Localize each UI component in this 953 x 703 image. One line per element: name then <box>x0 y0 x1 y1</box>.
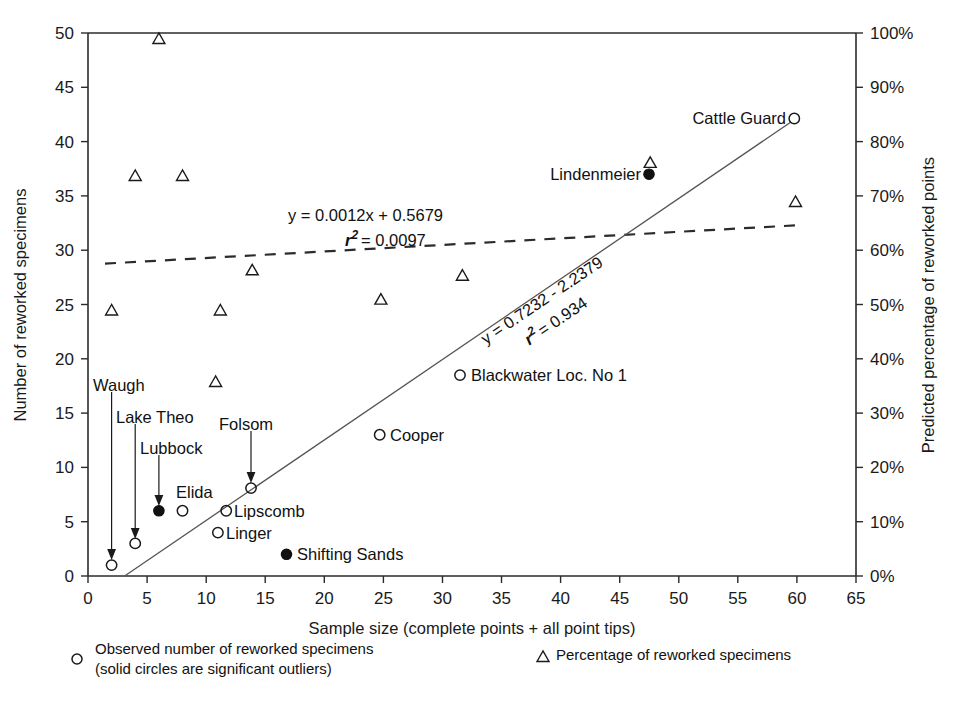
arrowhead-folsom <box>247 472 256 483</box>
x-tick-label-30: 30 <box>433 589 452 608</box>
equation-dashed-group: y = 0.0012x + 0.5679 r2= 0.0097 <box>288 206 443 249</box>
legend-triangle-label: Percentage of reworked specimens <box>556 646 791 663</box>
y-tick-label-0: 0 <box>65 567 74 586</box>
point-lindenmeier-outlier <box>644 169 654 179</box>
point-lake-theo <box>130 538 140 548</box>
y-axis-right-ticks: 0% 10% 20% 30% 40% 50% 60% 70% 80% 90% 1… <box>856 24 913 586</box>
triangle-marker <box>153 33 165 44</box>
legend-circle-icon <box>72 654 82 664</box>
label-blackwater: Blackwater Loc. No 1 <box>471 366 627 384</box>
equation-dashed-r2: r2= 0.0097 <box>345 228 426 249</box>
y2-tick-label-100: 100% <box>870 24 913 43</box>
x-tick-label-10: 10 <box>197 589 216 608</box>
point-waugh <box>106 560 116 570</box>
triangle-marker <box>644 157 656 168</box>
x-tick-label-20: 20 <box>315 589 334 608</box>
triangle-marker <box>129 170 141 181</box>
label-cattle-guard: Cattle Guard <box>692 109 786 127</box>
y-tick-label-35: 35 <box>55 187 74 206</box>
x-tick-label-45: 45 <box>610 589 629 608</box>
point-labels: Waugh Lake Theo Lubbock Elida Folsom Lip… <box>93 109 786 563</box>
y-tick-label-15: 15 <box>55 404 74 423</box>
label-cooper: Cooper <box>390 426 445 444</box>
x-tick-label-65: 65 <box>847 589 866 608</box>
point-cooper <box>375 430 385 440</box>
y-axis-title: Number of reworked specimens <box>11 189 29 422</box>
triangle-marker <box>106 305 118 316</box>
y2-tick-label-60: 60% <box>870 241 904 260</box>
label-linger: Linger <box>226 524 272 542</box>
y-tick-label-10: 10 <box>55 458 74 477</box>
legend-circle-label-line2: (solid circles are significant outliers) <box>95 660 332 677</box>
x-axis-ticks: 0 5 10 15 20 25 30 35 40 45 50 55 60 65 <box>83 576 865 608</box>
arrowhead-lake-theo <box>131 528 140 539</box>
legend-circle-label-line1: Observed number of reworked specimens <box>95 640 373 657</box>
y-tick-label-50: 50 <box>55 24 74 43</box>
label-elida: Elida <box>176 483 214 501</box>
y2-tick-label-80: 80% <box>870 133 904 152</box>
y2-tick-label-0: 0% <box>870 567 895 586</box>
x-tick-label-5: 5 <box>142 589 151 608</box>
y2-tick-label-50: 50% <box>870 296 904 315</box>
arrowhead-lubbock <box>155 495 164 506</box>
scatter-chart: 0 5 10 15 20 25 30 35 40 45 50 0% <box>0 0 953 703</box>
y2-tick-label-10: 10% <box>870 513 904 532</box>
y-axis-left-ticks: 0 5 10 15 20 25 30 35 40 45 50 <box>55 24 88 586</box>
figure-container: 0 5 10 15 20 25 30 35 40 45 50 0% <box>0 0 953 703</box>
y2-tick-label-40: 40% <box>870 350 904 369</box>
trendline-percentage-dashed <box>105 225 800 264</box>
arrowhead-waugh <box>107 549 116 560</box>
series-count-markers <box>106 113 799 570</box>
y2-tick-label-20: 20% <box>870 458 904 477</box>
trendline-count-solid <box>125 122 791 576</box>
x-tick-label-55: 55 <box>728 589 747 608</box>
y2-axis-title: Predicted percentage of reworked points <box>919 157 937 453</box>
point-cattle-guard <box>789 113 799 123</box>
y2-tick-label-90: 90% <box>870 78 904 97</box>
equation-dashed: y = 0.0012x + 0.5679 <box>288 206 443 224</box>
triangle-marker <box>375 294 387 305</box>
legend-triangle-icon <box>537 651 549 662</box>
y-tick-label-30: 30 <box>55 241 74 260</box>
label-lubbock: Lubbock <box>140 439 203 457</box>
point-elida <box>177 506 187 516</box>
triangle-marker <box>790 196 802 207</box>
y-tick-label-45: 45 <box>55 78 74 97</box>
x-tick-label-40: 40 <box>551 589 570 608</box>
label-waugh: Waugh <box>93 376 145 394</box>
triangle-marker <box>177 170 189 181</box>
y-tick-label-20: 20 <box>55 350 74 369</box>
y-tick-label-25: 25 <box>55 296 74 315</box>
y2-tick-label-70: 70% <box>870 187 904 206</box>
label-folsom: Folsom <box>219 415 273 433</box>
point-blackwater <box>455 370 465 380</box>
x-tick-label-0: 0 <box>83 589 92 608</box>
x-tick-label-25: 25 <box>374 589 393 608</box>
label-lake-theo: Lake Theo <box>116 408 194 426</box>
triangle-marker <box>456 270 468 281</box>
y2-tick-label-30: 30% <box>870 404 904 423</box>
x-tick-label-50: 50 <box>669 589 688 608</box>
r2-value: = 0.0097 <box>361 231 426 249</box>
label-shifting-sands: Shifting Sands <box>297 545 403 563</box>
triangle-marker <box>246 264 258 275</box>
x-tick-label-60: 60 <box>787 589 806 608</box>
x-tick-label-35: 35 <box>492 589 511 608</box>
y-tick-label-40: 40 <box>55 133 74 152</box>
label-lipscomb: Lipscomb <box>234 502 305 520</box>
point-shifting-sands-outlier <box>281 549 291 559</box>
x-tick-label-15: 15 <box>256 589 275 608</box>
triangle-marker <box>214 305 226 316</box>
triangle-marker <box>210 376 222 387</box>
point-lubbock-outlier <box>154 506 164 516</box>
y-tick-label-5: 5 <box>65 513 74 532</box>
r-exponent: 2 <box>350 228 358 242</box>
legend: Observed number of reworked specimens (s… <box>72 640 791 677</box>
label-lindenmeier: Lindenmeier <box>550 165 641 183</box>
equation-solid-group: y = 0.7232 - 2.2379 r2= 0.934 <box>477 253 619 368</box>
x-axis-title: Sample size (complete points + all point… <box>309 619 636 637</box>
series-percentage-markers <box>106 33 802 387</box>
point-linger <box>213 527 223 537</box>
